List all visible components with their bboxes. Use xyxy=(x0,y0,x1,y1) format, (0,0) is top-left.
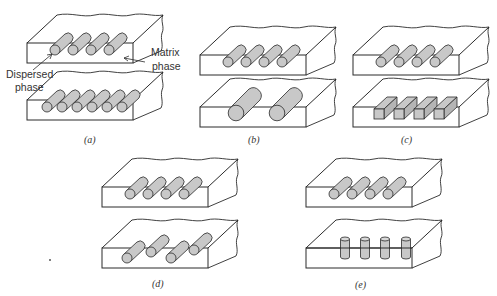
particles-b-bottom xyxy=(228,88,302,121)
dispersed-phase-annotation: Dispersed phase xyxy=(6,54,53,93)
stray-speck xyxy=(49,259,51,261)
matrix-label-line2: phase xyxy=(152,60,181,72)
panel-d: (d) xyxy=(102,158,238,290)
slab-b-bottom xyxy=(200,78,336,127)
caption-c: (c) xyxy=(401,134,413,146)
caption-a: (a) xyxy=(84,134,96,146)
caption-e: (e) xyxy=(355,279,367,291)
slab-d-top xyxy=(102,158,238,207)
particles-a-bottom xyxy=(42,90,140,112)
panel-b: (b) xyxy=(200,26,336,146)
particles-c-bottom xyxy=(374,97,457,119)
particles-a-top xyxy=(50,33,127,55)
slab-a-top xyxy=(27,14,163,63)
slab-c-bottom xyxy=(353,78,489,127)
slab-d-bottom xyxy=(102,219,238,268)
slab-b-top xyxy=(200,26,336,75)
dispersed-label-line1: Dispersed xyxy=(6,68,53,80)
caption-b: (b) xyxy=(248,134,260,146)
panel-a: Matrix phase Dispersed phase (a) xyxy=(6,14,181,146)
particles-b-top xyxy=(223,45,300,67)
particles-d-top xyxy=(125,177,202,199)
slab-c-top xyxy=(353,26,489,75)
panel-e: (e) xyxy=(306,158,442,291)
dispersed-label-line2: phase xyxy=(15,81,44,93)
slab-e-top xyxy=(306,158,442,207)
matrix-label-line1: Matrix xyxy=(151,46,180,58)
particles-e-top xyxy=(329,177,406,199)
slab-e-bottom xyxy=(306,219,442,268)
composite-dispersed-phase-diagram: Matrix phase Dispersed phase (a) (b) xyxy=(0,0,497,296)
caption-d: (d) xyxy=(152,278,164,290)
particles-c-top xyxy=(376,45,453,67)
panel-c: (c) xyxy=(353,26,489,146)
